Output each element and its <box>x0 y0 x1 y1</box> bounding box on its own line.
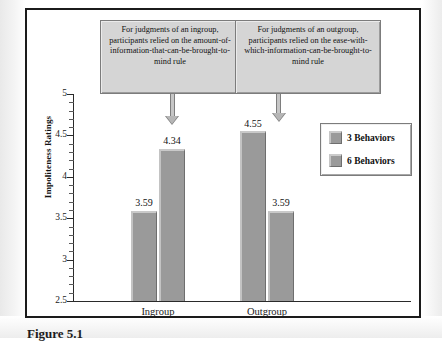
legend: 3 Behaviors 6 Behaviors <box>320 123 412 176</box>
legend-label-3-behaviors: 3 Behaviors <box>347 133 395 143</box>
y-tick-label-wrap-3: 3 <box>27 255 67 265</box>
ingroup-callout-arrow-shaft <box>170 94 175 117</box>
y-tick-major-3-5 <box>67 218 74 219</box>
y-tick-minor <box>69 293 74 294</box>
y-tick-minor <box>69 169 74 170</box>
y-tick-major-4 <box>67 177 74 178</box>
chart-plot-area: Impoliteness Ratings 5 4.5 4 3.5 3 2.5 <box>27 10 419 316</box>
y-tick-minor <box>69 227 74 228</box>
bar-value-outgroup-3-behaviors: 4.55 <box>230 118 276 129</box>
y-tick-minor <box>69 152 74 153</box>
y-axis-line <box>73 94 74 301</box>
bar-ingroup-6-behaviors <box>159 149 185 301</box>
y-tick-label-5: 5 <box>33 89 67 99</box>
y-tick-minor <box>69 102 74 103</box>
bar-value-ingroup-6-behaviors: 4.34 <box>149 135 195 146</box>
y-tick-minor <box>69 160 74 161</box>
y-tick-label-wrap-3-5: 3.5 <box>27 213 67 223</box>
y-tick-minor <box>69 235 74 236</box>
figure-caption: Figure 5.1 <box>27 326 83 342</box>
y-tick-minor <box>69 284 74 285</box>
outgroup-callout-arrow-shaft <box>276 94 281 114</box>
y-tick-label-wrap-4: 4 <box>27 172 67 182</box>
x-axis-line <box>73 301 411 302</box>
legend-label-6-behaviors: 6 Behaviors <box>347 156 395 166</box>
ingroup-callout-box: For judgments of an ingroup, participant… <box>100 20 240 94</box>
page-shading-left <box>0 0 26 338</box>
outgroup-callout-arrow-head <box>273 113 285 121</box>
y-tick-minor <box>69 243 74 244</box>
y-tick-major-4-5 <box>67 135 74 136</box>
legend-item-6-behaviors[interactable]: 6 Behaviors <box>329 154 395 167</box>
legend-swatch-6-behaviors <box>329 154 342 167</box>
ingroup-callout-arrow-head <box>166 116 178 124</box>
y-tick-minor <box>69 193 74 194</box>
y-tick-minor <box>69 111 74 112</box>
y-tick-major-5 <box>67 94 74 95</box>
y-tick-minor <box>69 127 74 128</box>
page-shading-right <box>422 0 442 338</box>
y-tick-label-3-5: 3.5 <box>33 213 67 223</box>
bar-ingroup-3-behaviors <box>131 211 157 301</box>
bar-outgroup-3-behaviors <box>240 131 266 301</box>
y-tick-major-2-5 <box>67 301 74 302</box>
y-tick-label-4: 4 <box>33 172 67 182</box>
x-tick-label-ingroup: Ingroup <box>124 306 192 317</box>
y-tick-label-4-5: 4.5 <box>33 130 67 140</box>
y-tick-minor <box>69 251 74 252</box>
y-tick-minor <box>69 202 74 203</box>
y-tick-minor <box>69 210 74 211</box>
y-tick-label-wrap-4-5: 4.5 <box>27 130 67 140</box>
outgroup-callout-box: For judgments of an outgroup, participan… <box>235 20 381 94</box>
bar-outgroup-6-behaviors <box>268 211 294 301</box>
x-tick-label-outgroup: Outgroup <box>233 306 301 317</box>
y-tick-minor <box>69 268 74 269</box>
y-tick-major-3 <box>67 260 74 261</box>
y-tick-label-wrap-5: 5 <box>27 89 67 99</box>
y-tick-minor <box>69 185 74 186</box>
y-tick-label-wrap-2-5: 2.5 <box>27 296 67 306</box>
y-axis-title: Impoliteness Ratings <box>43 97 53 217</box>
y-tick-minor <box>69 276 74 277</box>
y-tick-minor <box>69 119 74 120</box>
figure-frame: Impoliteness Ratings 5 4.5 4 3.5 3 2.5 <box>25 8 421 318</box>
y-tick-label-2-5: 2.5 <box>33 296 67 306</box>
bar-value-outgroup-6-behaviors: 3.59 <box>258 197 304 208</box>
legend-swatch-3-behaviors <box>329 131 342 144</box>
y-tick-minor <box>69 144 74 145</box>
legend-item-3-behaviors[interactable]: 3 Behaviors <box>329 131 395 144</box>
y-tick-label-3: 3 <box>33 255 67 265</box>
